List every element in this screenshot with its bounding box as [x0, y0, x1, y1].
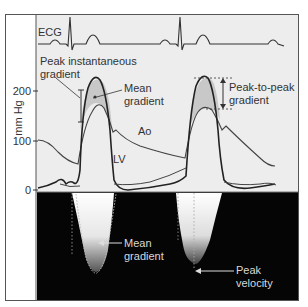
mean-gradient-label-2: gradient	[124, 95, 164, 107]
mean-gradient-dot	[94, 96, 97, 99]
peak-instantaneous-label-1: Peak instantaneous	[40, 55, 137, 67]
peak-instantaneous-label-2: gradient	[40, 68, 80, 80]
y-axis-label: mm Hg	[12, 100, 24, 135]
lv-label: LV	[113, 153, 126, 165]
peak-to-peak-label-2: gradient	[229, 94, 269, 106]
ecg-label: ECG	[38, 26, 62, 38]
doppler-mean-gradient-label-2: gradient	[124, 250, 164, 262]
peak-velocity-label-1: Peak	[236, 264, 262, 276]
y-tick-100: 100	[13, 135, 31, 147]
peak-velocity-label-2: velocity	[236, 277, 273, 289]
peak-to-peak-label-1: Peak-to-peak	[229, 81, 295, 93]
doppler-mean-gradient-label-1: Mean	[124, 237, 152, 249]
y-tick-200: 200	[13, 85, 31, 97]
mean-gradient-label-1: Mean	[124, 82, 152, 94]
aortic-stenosis-diagram: ECG 200 100 0 mm Hg Ao LV Peak instantan…	[0, 0, 308, 307]
aorta-label: Ao	[138, 125, 151, 137]
y-tick-0: 0	[25, 184, 31, 196]
